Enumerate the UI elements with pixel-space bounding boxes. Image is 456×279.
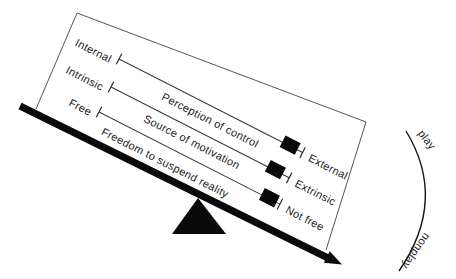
scale-right-tick: [277, 199, 282, 210]
scale-slider: [280, 135, 301, 154]
scale-right-label: Extrinsic: [293, 177, 338, 208]
beam-arrowhead: [324, 251, 342, 264]
scale-title: Freedom to suspend reality: [100, 125, 231, 200]
scale-left-label: Internal: [73, 36, 113, 64]
scale-left-label: Intrinsic: [64, 64, 106, 93]
balance-diagram: Internal External Perception of control …: [0, 0, 456, 279]
scale-slider: [259, 188, 280, 207]
scale-right-tick: [300, 147, 305, 158]
play-label: play: [416, 127, 439, 151]
scale-right-label: Not free: [284, 203, 326, 233]
scale-right-tick: [286, 172, 291, 183]
scale-right-label: External: [306, 152, 350, 182]
nonplay-label: nonplay: [400, 231, 433, 271]
figure-canvas: Internal External Perception of control …: [0, 0, 456, 279]
scale-slider: [265, 160, 286, 179]
scale-line: [119, 59, 303, 153]
scale-left-label: Free: [67, 96, 94, 118]
